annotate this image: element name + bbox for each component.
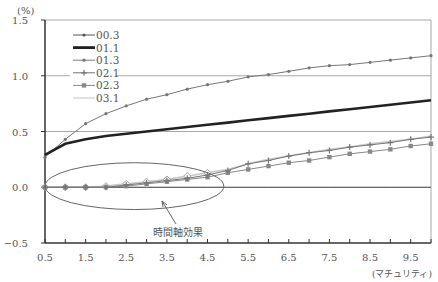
dot-marker [409,56,412,59]
dot-marker [247,75,250,78]
series-line [45,137,431,187]
dot-marker [64,138,67,141]
annotation-ellipse [45,163,224,210]
x-tick-label: 7.5 [321,252,337,263]
annotation-arrowhead [162,201,167,207]
square-marker [429,142,433,146]
x-tick-label: 6.5 [281,252,297,263]
plus-marker [428,134,434,140]
plus-marker [286,153,292,159]
y-tick-label: 0.5 [12,127,28,138]
dot-marker [125,104,128,107]
legend-label: 03.1 [96,92,119,104]
annotation-arrow-line [162,201,176,224]
dot-marker [287,70,290,73]
square-marker [327,155,331,159]
legend-label: 02.3 [96,79,119,91]
dot-marker [165,93,168,96]
plus-marker [347,144,353,150]
plus-marker [408,136,414,142]
dot-marker [186,88,189,91]
legend-label: 00.3 [96,29,119,41]
square-marker [408,144,412,148]
dot-marker [43,156,46,159]
dot-marker [206,83,209,86]
dot-marker [82,59,85,62]
series-line [45,100,431,155]
annotation-label: 時間軸効果 [153,226,203,238]
square-marker [266,164,270,168]
y-tick-label: 1.5 [12,15,28,26]
legend: 00.301.101.302.102.303.1 [70,29,119,105]
x-tick-label: 8.5 [362,252,378,263]
plus-marker [245,161,251,167]
square-marker [388,147,392,151]
x-tick-label: 1.5 [78,252,94,263]
dot-marker [389,59,392,62]
dot-marker [267,73,270,76]
x-tick-labels: 0.51.52.53.54.55.56.57.58.59.5 [37,252,419,263]
x-axis-label: (マチュリティ) [372,269,432,279]
series-01-1 [45,100,431,155]
dot-marker [84,122,87,125]
series-02-3 [43,142,433,190]
square-marker [246,167,250,171]
square-marker [287,161,291,165]
plus-marker [306,150,312,156]
square-marker [307,158,311,162]
dot-marker [226,80,229,83]
legend-label: 02.1 [96,67,119,79]
series-line [45,144,431,188]
y-tick-label: 1.0 [12,71,28,82]
x-tick-label: 2.5 [118,252,134,263]
y-tick-label: 0.0 [12,182,28,193]
dot-marker [368,61,371,64]
series-line [45,136,431,187]
y-axis-unit-label: (%) [17,5,34,16]
line-chart: 1.51.00.50.0−0.5 0.51.52.53.54.55.56.57.… [0,0,438,282]
x-tick-label: 9.5 [403,252,419,263]
dot-marker [348,63,351,66]
x-tick-label: 0.5 [37,252,53,263]
y-tick-label: −0.5 [4,238,28,249]
x-tick-label: 4.5 [200,252,216,263]
chart-container: 1.51.00.50.0−0.5 0.51.52.53.54.55.56.57.… [0,0,438,282]
y-tick-labels: 1.51.00.50.0−0.5 [4,15,28,249]
dot-marker [328,64,331,67]
square-marker [82,83,86,87]
dot-marker [82,33,85,36]
dot-marker [104,112,107,115]
x-tick-label: 3.5 [159,252,175,263]
legend-label: 01.1 [96,42,119,54]
square-marker [348,152,352,156]
dot-marker [429,54,432,57]
dot-marker [145,98,148,101]
x-tick-label: 5.5 [240,252,256,263]
square-marker [368,149,372,153]
dot-marker [308,66,311,69]
legend-label: 01.3 [96,54,119,66]
